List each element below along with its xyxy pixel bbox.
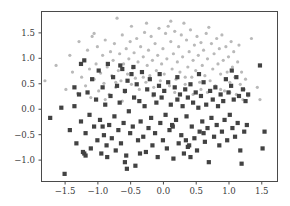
data-point <box>96 45 99 48</box>
data-point <box>105 155 109 159</box>
data-point <box>128 131 132 135</box>
data-point <box>68 128 72 132</box>
data-point <box>109 50 112 53</box>
data-point <box>195 35 198 38</box>
data-point <box>177 141 181 145</box>
data-point <box>131 65 135 69</box>
data-point <box>260 146 264 150</box>
data-point <box>173 30 176 33</box>
data-point <box>186 95 190 99</box>
data-point <box>233 135 237 139</box>
data-point <box>219 88 222 91</box>
data-point <box>132 51 135 54</box>
data-point <box>107 123 111 127</box>
data-point <box>220 33 223 36</box>
data-point <box>83 131 87 135</box>
y-tick-label: 0.0 <box>21 104 35 114</box>
data-point <box>230 40 233 43</box>
data-point <box>211 67 214 70</box>
data-point <box>154 101 158 105</box>
data-point <box>199 94 203 98</box>
data-point <box>144 81 147 84</box>
data-point <box>160 62 163 65</box>
data-point <box>191 59 194 62</box>
data-point <box>195 148 199 152</box>
data-point <box>114 148 118 152</box>
data-point <box>108 94 112 98</box>
data-point <box>227 55 230 58</box>
data-point <box>208 89 212 93</box>
data-point <box>205 32 208 35</box>
data-point <box>262 130 266 134</box>
data-point <box>77 92 81 96</box>
data-point <box>89 96 92 99</box>
y-tick-label: 1.5 <box>21 28 35 38</box>
data-point <box>130 25 133 28</box>
data-point <box>116 128 120 132</box>
data-point <box>209 79 212 82</box>
data-point <box>222 59 225 62</box>
data-point <box>224 45 227 48</box>
data-point <box>90 77 94 81</box>
data-point <box>145 22 148 25</box>
data-point <box>142 76 145 79</box>
data-point <box>207 160 211 164</box>
data-point <box>206 57 209 60</box>
data-point <box>181 55 184 58</box>
data-point <box>184 76 187 79</box>
data-point <box>216 62 219 65</box>
data-point <box>153 131 157 135</box>
data-point <box>125 167 129 171</box>
data-point <box>98 118 102 122</box>
data-point <box>175 75 179 79</box>
data-point <box>186 145 190 149</box>
data-point <box>171 124 175 128</box>
data-point <box>199 88 202 91</box>
data-point <box>230 126 234 130</box>
data-point <box>159 79 162 82</box>
data-point <box>142 55 145 58</box>
data-point <box>169 103 173 107</box>
data-point <box>219 92 223 96</box>
data-point <box>221 99 225 103</box>
data-point <box>72 85 76 89</box>
data-point <box>112 114 116 118</box>
data-point <box>146 126 150 130</box>
data-point <box>127 57 130 60</box>
data-point <box>171 157 175 161</box>
data-point <box>164 32 167 35</box>
data-point <box>175 97 179 101</box>
data-point <box>104 38 107 41</box>
data-point <box>184 83 187 86</box>
data-point <box>142 104 146 108</box>
data-point <box>64 88 67 91</box>
data-point <box>91 35 94 38</box>
data-point <box>228 81 231 84</box>
data-point <box>152 92 156 96</box>
data-point <box>188 155 192 159</box>
data-point <box>129 72 133 76</box>
data-point <box>113 42 116 45</box>
data-point <box>173 85 177 89</box>
data-point <box>180 33 183 36</box>
data-point <box>212 52 215 55</box>
data-point <box>127 109 131 113</box>
data-point <box>232 97 236 101</box>
data-point <box>174 118 178 122</box>
data-point <box>163 73 166 76</box>
data-point <box>124 153 128 157</box>
y-tick-label: −1.0 <box>14 155 35 165</box>
data-point <box>167 25 170 28</box>
data-point <box>188 50 191 53</box>
data-point <box>151 59 154 62</box>
data-point <box>226 90 230 94</box>
data-point <box>54 64 57 67</box>
data-point <box>153 42 156 45</box>
data-point <box>101 54 104 57</box>
data-point <box>122 62 125 65</box>
data-point <box>203 74 206 77</box>
data-point <box>178 70 181 73</box>
data-point <box>194 69 197 72</box>
data-point <box>222 118 226 122</box>
data-point <box>234 75 238 79</box>
